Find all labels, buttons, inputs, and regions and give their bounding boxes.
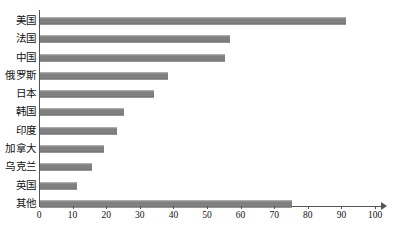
chart-row: 乌克兰 [0, 158, 399, 176]
x-tick-5 [207, 206, 208, 209]
x-tick-2 [106, 206, 107, 209]
x-tick-7 [274, 206, 275, 209]
chart-row: 英国 [0, 177, 399, 195]
category-label-8: 乌克兰 [5, 161, 36, 173]
x-tick-label-2: 20 [101, 210, 111, 221]
chart-row: 印度 [0, 122, 399, 140]
chart-row: 韩国 [0, 103, 399, 121]
bar-6 [40, 127, 117, 134]
category-label-7: 加拿大 [5, 143, 36, 155]
x-tick-10 [375, 206, 376, 209]
chart-row: 法国 [0, 30, 399, 48]
bar-8 [40, 164, 92, 171]
category-label-4: 日本 [16, 88, 36, 100]
x-tick-label-10: 100 [368, 210, 382, 221]
x-tick-label-8: 80 [303, 210, 313, 221]
category-label-3: 俄罗斯 [5, 70, 36, 82]
category-label-1: 法国 [16, 33, 36, 45]
x-tick-6 [241, 206, 242, 209]
bar-3 [40, 72, 168, 79]
x-tick-1 [73, 206, 74, 209]
x-tick-label-4: 40 [169, 210, 179, 221]
x-tick-label-5: 50 [202, 210, 212, 221]
bar-7 [40, 146, 104, 153]
category-label-5: 韩国 [16, 106, 36, 118]
category-label-10: 其他 [16, 198, 36, 210]
chart-row: 加拿大 [0, 140, 399, 158]
x-tick-label-9: 90 [337, 210, 347, 221]
x-tick-label-1: 10 [68, 210, 78, 221]
category-label-2: 中国 [16, 52, 36, 64]
plot-area: 美国法国中国俄罗斯日本韩国印度加拿大乌克兰英国其他 01020304050607… [0, 0, 399, 236]
x-tick-9 [341, 206, 342, 209]
bar-chart: 美国法国中国俄罗斯日本韩国印度加拿大乌克兰英国其他 01020304050607… [0, 0, 399, 236]
x-tick-label-0: 0 [37, 210, 42, 221]
x-tick-3 [140, 206, 141, 209]
bar-4 [40, 91, 154, 98]
x-tick-label-7: 70 [269, 210, 279, 221]
bar-10 [40, 200, 292, 207]
category-label-6: 印度 [16, 125, 36, 137]
category-label-0: 美国 [16, 15, 36, 27]
bar-5 [40, 109, 124, 116]
x-tick-label-3: 30 [135, 210, 145, 221]
chart-row: 日本 [0, 85, 399, 103]
bar-2 [40, 54, 225, 61]
chart-row: 中国 [0, 48, 399, 66]
bar-0 [40, 17, 346, 24]
x-tick-8 [308, 206, 309, 209]
chart-row: 俄罗斯 [0, 67, 399, 85]
x-tick-label-6: 60 [236, 210, 246, 221]
x-tick-4 [173, 206, 174, 209]
bar-1 [40, 36, 230, 43]
chart-row: 美国 [0, 12, 399, 30]
bar-9 [40, 182, 77, 189]
category-label-9: 英国 [16, 180, 36, 192]
